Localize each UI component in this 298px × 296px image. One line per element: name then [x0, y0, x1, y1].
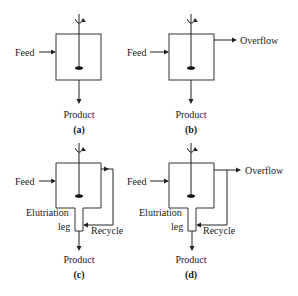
feed-arrow-icon — [164, 179, 169, 184]
caption-d: (d) — [185, 269, 197, 281]
leg-label: leg — [58, 221, 70, 232]
feed-label: Feed — [15, 47, 34, 58]
recycle-label: Recycle — [91, 225, 124, 236]
feed-label: Feed — [15, 176, 34, 187]
panel-d: Feed Overflow Elutriation leg Recycle Pr… — [127, 143, 284, 281]
caption-b: (b) — [185, 124, 197, 136]
product-arrow-icon — [190, 246, 195, 251]
product-label: Product — [175, 109, 206, 120]
recycle-arrow-icon — [196, 223, 201, 228]
product-label: Product — [63, 254, 94, 265]
impeller-icon — [75, 194, 83, 198]
overflow-arrow-icon — [232, 38, 237, 43]
elutriation-label: Elutriation — [26, 207, 69, 218]
overflow-label: Overflow — [245, 165, 284, 176]
product-arrow-icon — [77, 99, 82, 104]
panel-c: Feed Elutriation leg Recycle Product (c) — [15, 143, 124, 281]
feed-label: Feed — [127, 176, 146, 187]
recycle-label: Recycle — [203, 225, 236, 236]
panel-b: Feed Overflow Product (b) — [127, 14, 279, 136]
overflow-arrow-icon — [236, 168, 241, 173]
panel-a: Feed Product (a) — [15, 14, 101, 136]
product-label: Product — [175, 254, 206, 265]
impeller-icon — [187, 194, 195, 198]
feed-arrow-icon — [164, 50, 169, 55]
feed-arrow-icon — [51, 50, 56, 55]
product-label: Product — [63, 109, 94, 120]
caption-a: (a) — [73, 124, 85, 136]
recycle-arrow-icon — [83, 223, 88, 228]
product-arrow-icon — [77, 246, 82, 251]
product-arrow-icon — [189, 99, 194, 104]
impeller-icon — [187, 66, 195, 70]
leg-label: leg — [171, 221, 183, 232]
overflow-label: Overflow — [240, 35, 279, 46]
caption-c: (c) — [73, 269, 84, 281]
elutriation-label: Elutriation — [139, 207, 182, 218]
feed-arrow-icon — [51, 179, 56, 184]
feed-label: Feed — [127, 47, 146, 58]
crystallizer-diagram: Feed Product (a) Feed Overflow Product (… — [0, 0, 298, 296]
impeller-icon — [75, 66, 83, 70]
